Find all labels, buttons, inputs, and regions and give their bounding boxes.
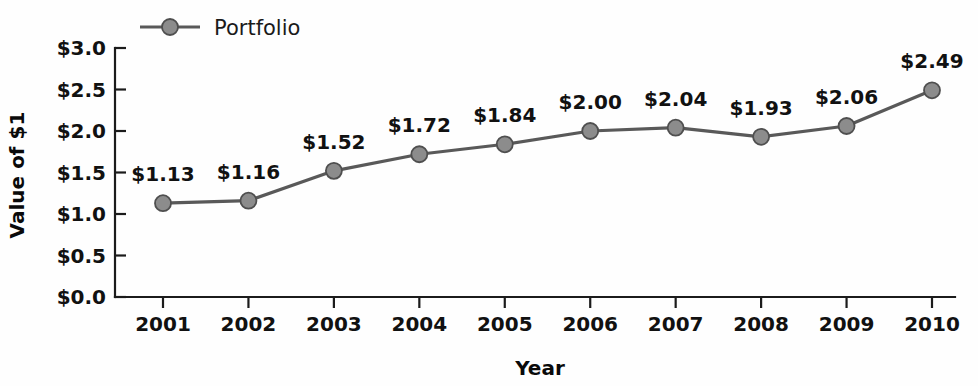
data-point-label: $2.04	[644, 87, 707, 111]
x-tick-label: 2010	[904, 312, 960, 336]
y-tick-label: $3.0	[57, 36, 106, 60]
data-point-label: $1.16	[217, 160, 280, 184]
data-point-marker	[753, 129, 769, 145]
chart-container: $0.0$0.5$1.0$1.5$2.0$2.5$3.0 20012002200…	[0, 0, 978, 386]
x-tick-label: 2004	[391, 312, 447, 336]
x-tick-label: 2007	[648, 312, 704, 336]
data-point-marker	[326, 163, 342, 179]
x-tick-label: 2005	[477, 312, 533, 336]
data-point-label: $1.72	[388, 113, 451, 137]
y-tick-label: $1.5	[57, 161, 106, 185]
data-point-label: $2.49	[900, 49, 963, 73]
y-axis-title: Value of $1	[5, 112, 29, 239]
data-point-marker	[497, 136, 513, 152]
x-tick-label: 2001	[135, 312, 191, 336]
x-tick-label: 2002	[221, 312, 277, 336]
data-point-label: $1.84	[473, 103, 536, 127]
x-tick-label: 2003	[306, 312, 362, 336]
portfolio-data-labels: $1.13$1.16$1.52$1.72$1.84$2.00$2.04$1.93…	[131, 49, 963, 186]
data-point-marker	[240, 193, 256, 209]
y-tick-label: $2.0	[57, 119, 106, 143]
data-point-marker	[839, 118, 855, 134]
data-point-label: $1.52	[302, 130, 365, 154]
x-tick-label: 2009	[819, 312, 875, 336]
y-tick-label: $0.0	[57, 285, 106, 309]
data-point-marker	[411, 146, 427, 162]
y-axis-tick-labels: $0.0$0.5$1.0$1.5$2.0$2.5$3.0	[57, 36, 106, 309]
legend-marker-sample	[162, 19, 178, 35]
data-point-label: $1.13	[131, 162, 194, 186]
data-point-label: $2.00	[559, 90, 622, 114]
x-axis-tick-labels: 2001200220032004200520062007200820092010	[135, 312, 960, 336]
y-axis-tick-marks	[115, 48, 126, 297]
x-tick-label: 2006	[562, 312, 618, 336]
legend-label-portfolio: Portfolio	[214, 16, 300, 40]
data-point-marker	[582, 123, 598, 139]
x-axis-tick-marks	[163, 297, 932, 308]
data-point-label: $1.93	[729, 96, 792, 120]
y-tick-label: $2.5	[57, 78, 106, 102]
data-point-label: $2.06	[815, 85, 878, 109]
x-axis-title: Year	[514, 356, 565, 380]
y-tick-label: $0.5	[57, 244, 106, 268]
legend: Portfolio	[140, 16, 300, 40]
y-tick-label: $1.0	[57, 202, 106, 226]
data-point-marker	[924, 82, 940, 98]
data-point-marker	[668, 120, 684, 136]
data-point-marker	[155, 195, 171, 211]
x-tick-label: 2008	[733, 312, 789, 336]
line-chart: $0.0$0.5$1.0$1.5$2.0$2.5$3.0 20012002200…	[0, 0, 978, 386]
